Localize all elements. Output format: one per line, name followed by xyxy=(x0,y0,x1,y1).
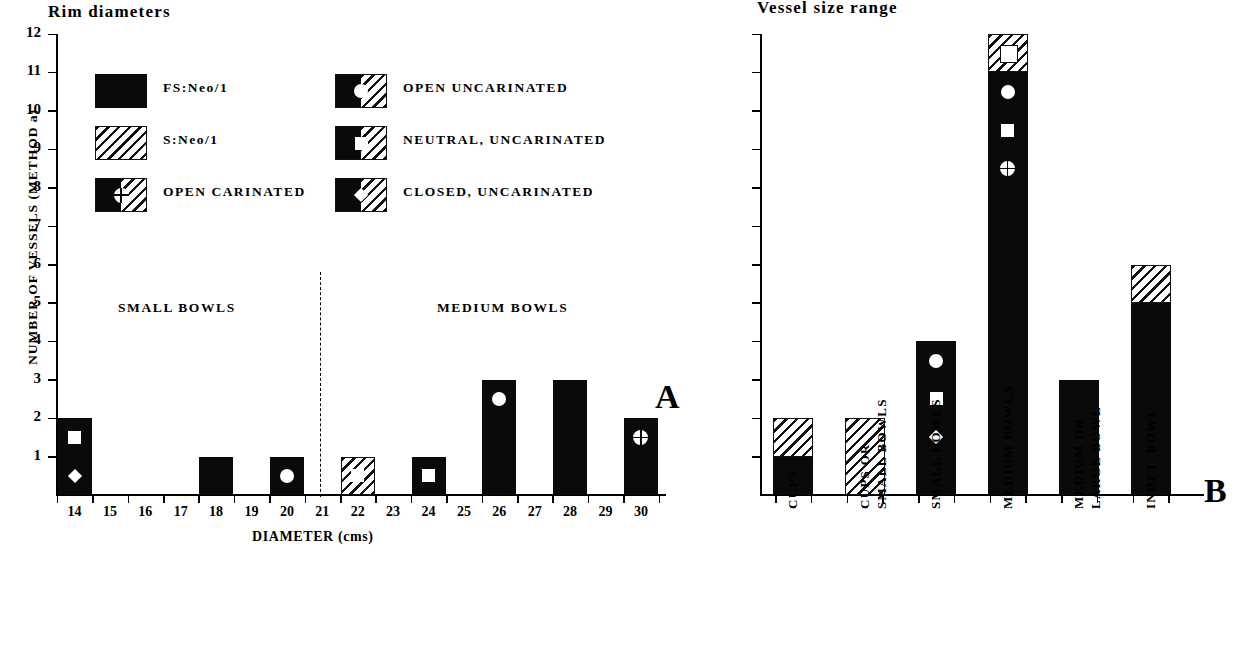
panel-a-y-tick xyxy=(48,110,57,112)
panel-a-group-divider xyxy=(320,272,321,497)
panel-b-category-label: MEDIUM OR xyxy=(1071,418,1087,510)
legend-label: OPEN CARINATED xyxy=(163,184,306,200)
marker-open-uncarinated xyxy=(929,354,943,368)
panel-b-y-tick xyxy=(752,72,761,74)
panel-b-category-label: MEDIUM BOWLS xyxy=(1000,385,1016,509)
panel-b-x-tick xyxy=(1133,495,1135,503)
panel-a-y-tick xyxy=(48,341,57,343)
panel-a-y-tick xyxy=(48,149,57,151)
panel-a-y-tick-label: 4 xyxy=(19,331,41,348)
panel-a-x-tick-label: 26 xyxy=(486,504,512,520)
panel-a-x-tick-label: 27 xyxy=(522,504,548,520)
panel-a-x-tick-label: 18 xyxy=(203,504,229,520)
panel-b-title: Vessel size range xyxy=(757,0,898,18)
panel-a-x-tick xyxy=(57,495,59,503)
marker-open-uncarinated xyxy=(354,84,368,98)
panel-b-y-tick xyxy=(752,341,761,343)
panel-b-y-tick xyxy=(752,187,761,189)
panel-a-x-tick xyxy=(305,495,307,503)
panel-a-x-tick xyxy=(340,495,342,503)
panel-a-x-tick-label: 17 xyxy=(168,504,194,520)
panel-a-x-tick-label: 16 xyxy=(132,504,158,520)
panel-b-letter: B xyxy=(1204,472,1227,510)
panel-a-y-tick-label: 12 xyxy=(19,24,41,41)
panel-a-x-tick xyxy=(128,495,130,503)
panel-a-bar xyxy=(553,380,587,495)
marker-neutral-uncarinated xyxy=(1000,45,1018,63)
panel-a-x-tick-label: 29 xyxy=(593,504,619,520)
marker-neutral-uncarinated xyxy=(422,469,435,482)
panel-b-y-tick xyxy=(752,149,761,151)
panel-a-x-tick xyxy=(446,495,448,503)
legend-label: CLOSED, UNCARINATED xyxy=(403,184,594,200)
marker-open-carinated xyxy=(1000,161,1015,176)
marker-open-uncarinated xyxy=(280,469,294,483)
panel-a-x-tick xyxy=(482,495,484,503)
panel-b-category-label: SMALL BOWLS xyxy=(928,398,944,509)
panel-a-y-tick xyxy=(48,456,57,458)
marker-neutral-uncarinated xyxy=(351,469,364,482)
panel-a-x-tick xyxy=(552,495,554,503)
panel-a-letter: A xyxy=(655,378,680,416)
marker-neutral-uncarinated xyxy=(1001,124,1014,137)
panel-a-x-tick-label: 20 xyxy=(274,504,300,520)
panel-b-category-label: CUPS xyxy=(785,470,801,509)
panel-a-y-tick xyxy=(48,302,57,304)
panel-b-x-tick xyxy=(1025,495,1027,503)
panel-a-y-tick xyxy=(48,264,57,266)
panel-a-y-tick-label: 5 xyxy=(19,293,41,310)
panel-b-y-tick xyxy=(752,456,761,458)
panel-a-y-tick-label: 9 xyxy=(19,139,41,156)
panel-a-y-tick xyxy=(48,72,57,74)
panel-b-x-tick xyxy=(1061,495,1063,503)
panel-b-category-label: SMALL BOWLS xyxy=(874,398,890,509)
panel-a-x-tick xyxy=(517,495,519,503)
panel-a-x-tick-label: 28 xyxy=(557,504,583,520)
panel-a-y-tick xyxy=(48,379,57,381)
panel-a-x-tick xyxy=(375,495,377,503)
figure-root: Rim diameters NUMBER OF VESSELS (METHOD … xyxy=(0,0,1241,660)
panel-a-x-axis-title: DIAMETER (cms) xyxy=(252,529,374,545)
panel-a-y-tick xyxy=(48,34,57,36)
panel-a-x-tick-label: 25 xyxy=(451,504,477,520)
legend-label: FS:Neo/1 xyxy=(163,80,228,96)
panel-b-x-tick xyxy=(775,495,777,503)
marker-neutral-uncarinated xyxy=(68,431,81,444)
panel-a-x-tick-label: 30 xyxy=(628,504,654,520)
marker-open-carinated xyxy=(114,188,129,203)
panel-a-x-tick xyxy=(163,495,165,503)
panel-a-y-tick-label: 10 xyxy=(19,101,41,118)
panel-a-x-tick-label: 23 xyxy=(380,504,406,520)
panel-a-x-tick xyxy=(588,495,590,503)
panel-a-y-tick-label: 2 xyxy=(19,408,41,425)
panel-b-category-label: CUPS OR xyxy=(857,443,873,509)
panel-b-y-tick xyxy=(752,302,761,304)
legend-label: NEUTRAL, UNCARINATED xyxy=(403,132,606,148)
panel-b-x-tick xyxy=(990,495,992,503)
panel-b-x-tick xyxy=(918,495,920,503)
panel-a-x-tick xyxy=(269,495,271,503)
panel-b-bar xyxy=(1131,265,1171,303)
panel-b-x-tick xyxy=(811,495,813,503)
panel-a-x-tick-label: 21 xyxy=(309,504,335,520)
panel-b-category-label: LARGE BOWL xyxy=(1088,406,1104,509)
panel-a-title: Rim diameters xyxy=(48,2,171,22)
panel-a-y-tick xyxy=(48,187,57,189)
legend-label: S:Neo/1 xyxy=(163,132,219,148)
panel-a-x-tick xyxy=(198,495,200,503)
panel-a-x-tick-label: 24 xyxy=(416,504,442,520)
legend-swatch-hatched xyxy=(95,126,147,160)
panel-b-y-tick xyxy=(752,34,761,36)
panel-b-y-tick xyxy=(752,418,761,420)
panel-a-x-tick-label: 15 xyxy=(97,504,123,520)
panel-b-bar xyxy=(773,418,813,456)
panel-b-category-label: INDET. BOWL xyxy=(1143,408,1159,509)
legend-swatch-solid xyxy=(95,74,147,108)
panel-a-x-tick xyxy=(659,495,661,503)
panel-a-y-tick xyxy=(48,226,57,228)
panel-a-y-tick-label: 6 xyxy=(19,255,41,272)
panel-a-y-tick-label: 3 xyxy=(19,370,41,387)
panel-a-x-tick xyxy=(234,495,236,503)
panel-b-x-tick xyxy=(847,495,849,503)
panel-b-x-tick xyxy=(1168,495,1170,503)
